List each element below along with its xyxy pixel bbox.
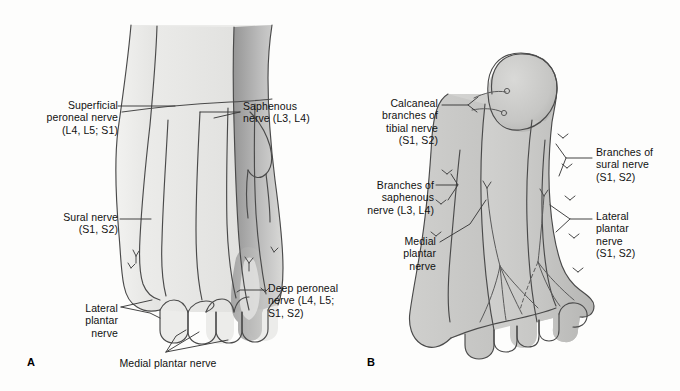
label-superficial-peroneal-nerve: Superficial peroneal nerve (L4, L5; S1) (0, 99, 118, 136)
heel-pad (488, 54, 556, 132)
label-sural-nerve: Sural nerve (S1, S2) (0, 211, 118, 236)
superficial-peroneal-territory (139, 26, 249, 312)
label-calcaneal-branches-tibial-nerve: Calcaneal branches of tibial nerve (S1, … (318, 97, 438, 147)
label-medial-plantar-nerve-a: Medial plantar nerve (109, 357, 227, 369)
label-lateral-plantar-nerve-b: Lateral plantar nerve (S1, S2) (596, 210, 678, 260)
label-branches-of-saphenous-nerve: Branches of saphenous nerve (L3, L4) (310, 179, 434, 216)
panel-letter-b: B (367, 356, 375, 368)
label-medial-plantar-nerve-b: Medial plantar nerve (348, 235, 436, 272)
panel-letter-a: A (27, 356, 35, 368)
leader-lateral-plantar-b2 (556, 219, 570, 232)
label-branches-of-sural-nerve: Branches of sural nerve (S1, S2) (596, 146, 680, 183)
label-deep-peroneal-nerve: Deep peroneal nerve (L4, L5; S1, S2) (268, 282, 364, 319)
leader-sural-branches (556, 144, 592, 158)
label-lateral-plantar-nerve-a: Lateral plantar nerve (0, 302, 118, 339)
leader-lateral-plantar-b (550, 205, 592, 219)
anatomy-figure: Superficial peroneal nerve (L4, L5; S1) … (0, 0, 680, 391)
sole-lateral-band (527, 120, 594, 342)
panel-a-dorsum-artwork (116, 25, 283, 352)
